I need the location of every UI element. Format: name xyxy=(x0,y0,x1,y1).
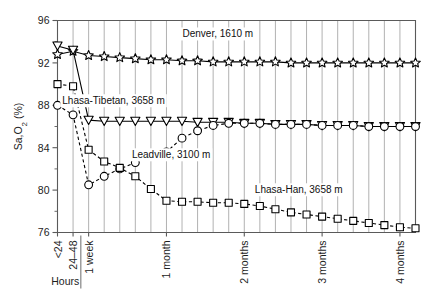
data-point-marker xyxy=(255,57,265,66)
y-tick-label: 76 xyxy=(38,226,50,238)
data-point-marker xyxy=(256,203,263,210)
x-axis-ticks xyxy=(58,233,400,237)
series-line xyxy=(58,105,416,185)
data-point-marker xyxy=(209,122,217,130)
x-axis-labels: <2424–481 week1 month2 months3 months4 m… xyxy=(51,236,406,289)
data-point-marker xyxy=(287,209,294,216)
data-point-marker xyxy=(194,127,202,135)
data-point-marker xyxy=(334,122,342,130)
data-point-marker xyxy=(411,58,421,67)
y-axis-title-text: Sa,O2 (%) xyxy=(12,103,29,151)
data-point-marker xyxy=(146,55,156,64)
data-point-marker xyxy=(132,173,139,180)
data-point-marker xyxy=(177,56,187,65)
data-point-marker xyxy=(99,52,109,61)
data-point-marker xyxy=(319,213,326,220)
data-point-marker xyxy=(178,134,186,142)
chart-figure: 768084889296 Denver, 1610 mLhasa-Tibetan… xyxy=(0,0,434,290)
data-point-marker xyxy=(412,225,419,232)
data-point-marker xyxy=(380,58,390,67)
x-tick-label: 4 months xyxy=(394,241,406,284)
y-axis-title: Sa,O2 (%) xyxy=(12,103,29,151)
x-tick-label: 24–48 xyxy=(67,240,79,269)
data-point-marker xyxy=(380,123,388,131)
data-point-marker xyxy=(115,53,125,62)
data-point-marker xyxy=(303,211,310,218)
data-point-marker xyxy=(179,198,186,205)
data-point-marker xyxy=(54,81,61,88)
x-tick-label: <24 xyxy=(52,240,64,258)
data-point-marker xyxy=(350,217,357,224)
data-point-marker xyxy=(318,122,326,130)
data-point-marker xyxy=(396,224,403,231)
y-tick-label: 84 xyxy=(38,142,50,154)
data-point-marker xyxy=(349,122,357,130)
data-point-marker xyxy=(163,197,170,204)
x-group-label-hours: Hours xyxy=(51,275,79,287)
data-point-marker xyxy=(256,119,264,127)
series-line xyxy=(58,51,416,63)
series-label-4: Lhasa-Han, 3658 m xyxy=(255,184,343,195)
series-label-3: Leadville, 3100 m xyxy=(132,149,210,160)
data-point-marker xyxy=(208,57,218,66)
saturation-line-chart: 768084889296 Denver, 1610 mLhasa-Tibetan… xyxy=(0,0,434,290)
data-point-marker xyxy=(302,58,312,67)
data-point-marker xyxy=(272,206,279,213)
data-point-marker xyxy=(85,181,93,189)
data-series xyxy=(53,42,421,232)
x-tick-label: 1 week xyxy=(83,240,95,274)
data-point-marker xyxy=(131,54,141,63)
data-point-marker xyxy=(193,56,203,65)
data-point-marker xyxy=(287,120,295,128)
data-point-marker xyxy=(333,58,343,67)
y-tick-label: 88 xyxy=(38,99,50,111)
data-point-marker xyxy=(85,146,92,153)
data-point-marker xyxy=(116,164,123,171)
y-axis-ticks: 768084889296 xyxy=(38,14,58,238)
data-point-marker xyxy=(271,57,281,66)
data-point-marker xyxy=(396,123,404,131)
data-point-marker xyxy=(147,186,154,193)
series-line xyxy=(58,46,416,127)
series-label-2: Lhasa-Tibetan, 3658 m xyxy=(62,95,164,106)
data-point-marker xyxy=(240,119,248,127)
data-point-marker xyxy=(364,58,374,67)
data-point-marker xyxy=(365,219,372,226)
data-point-marker xyxy=(101,158,108,165)
series-labels: Denver, 1610 mLhasa-Tibetan, 3658 mLeadv… xyxy=(60,27,344,196)
data-point-marker xyxy=(194,198,201,205)
data-point-marker xyxy=(317,58,327,67)
data-point-marker xyxy=(241,200,248,207)
data-point-marker xyxy=(225,119,233,127)
data-point-marker xyxy=(224,57,234,66)
data-point-marker xyxy=(412,123,420,131)
data-point-marker xyxy=(53,42,62,50)
x-tick-label: 2 months xyxy=(238,241,250,284)
data-point-marker xyxy=(395,58,405,67)
data-point-marker xyxy=(240,57,250,66)
y-tick-label: 96 xyxy=(38,14,50,26)
x-tick-label: 1 month xyxy=(160,240,172,278)
series-1 xyxy=(53,46,421,67)
data-point-marker xyxy=(69,111,77,119)
data-point-marker xyxy=(225,199,232,206)
data-point-marker xyxy=(286,58,296,67)
x-tick-label: 3 months xyxy=(316,241,328,284)
data-point-marker xyxy=(365,123,373,131)
series-label-1: Denver, 1610 m xyxy=(183,28,254,39)
data-point-marker xyxy=(54,101,62,109)
y-tick-label: 80 xyxy=(38,184,50,196)
data-point-marker xyxy=(100,172,108,180)
data-point-marker xyxy=(70,83,77,90)
data-point-marker xyxy=(381,222,388,229)
data-point-marker xyxy=(303,120,311,128)
data-point-marker xyxy=(210,199,217,206)
data-point-marker xyxy=(334,215,341,222)
data-point-marker xyxy=(84,50,94,59)
series-3 xyxy=(54,101,420,188)
data-point-marker xyxy=(348,58,358,67)
y-tick-label: 92 xyxy=(38,57,50,69)
data-point-marker xyxy=(272,120,280,128)
data-point-marker xyxy=(162,55,172,64)
